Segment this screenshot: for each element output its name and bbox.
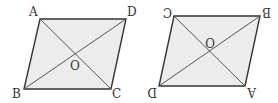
label-a-rotated: A bbox=[247, 85, 257, 99]
label-b-rotated: B bbox=[262, 5, 271, 19]
parallelogram-right: C B A D O bbox=[147, 5, 271, 99]
label-o: O bbox=[70, 59, 80, 73]
label-a: A bbox=[28, 5, 38, 19]
diagram-canvas: A D B C O C B A D O bbox=[0, 0, 278, 103]
label-b: B bbox=[12, 87, 21, 101]
label-c: C bbox=[112, 87, 121, 101]
label-c-rotated: C bbox=[163, 5, 172, 19]
parallelogram-left: A D B C O bbox=[12, 5, 137, 101]
label-d: D bbox=[127, 5, 137, 19]
label-o-rotated: O bbox=[205, 35, 215, 49]
label-d-rotated: D bbox=[147, 85, 157, 99]
